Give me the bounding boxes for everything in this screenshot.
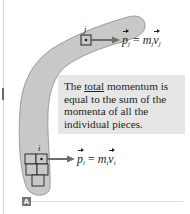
piece-i-arrowhead — [67, 156, 75, 163]
momentum-equation-i: pi = mivi — [77, 152, 116, 167]
piece-j-label: j — [84, 24, 87, 34]
vector-v-i: v — [108, 152, 113, 167]
panel-label-badge: A — [22, 197, 31, 206]
vector-p-i: p — [77, 152, 83, 167]
momentum-figure: j i pj = mjvj The total momentum is equa… — [0, 0, 190, 214]
vector-p-j: p — [122, 33, 128, 48]
panel-divider — [31, 201, 183, 202]
vector-v-j: v — [153, 33, 158, 48]
callout-box: The total momentum is equal to the sum o… — [58, 75, 185, 134]
piece-i-label: i — [38, 143, 41, 153]
momentum-equation-j: pj = mjvj — [122, 33, 161, 48]
piece-j-dot — [85, 39, 88, 42]
callout-emphasis: total — [84, 80, 104, 92]
piece-i-dot — [40, 158, 43, 161]
